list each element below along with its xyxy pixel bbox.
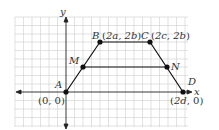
label-C: C [141, 30, 149, 41]
point-M [80, 64, 85, 69]
coord-C: (2c, 2b) [151, 30, 190, 41]
y-axis-down-arrow-icon [64, 124, 68, 129]
point-N [164, 64, 169, 69]
label-N: N [170, 61, 181, 72]
coord-B: (2a, 2b) [102, 30, 141, 41]
point-A [63, 89, 68, 94]
label-A: A [54, 79, 62, 90]
label-B: B [91, 30, 99, 41]
x-axis-right-arrow-icon [187, 90, 192, 94]
x-axis-left-arrow-icon [16, 90, 21, 94]
coord-A: (0, 0) [38, 95, 65, 106]
label-D: D [187, 76, 196, 87]
y-axis-up-arrow-icon [64, 17, 68, 22]
y-axis-label: y [59, 6, 66, 17]
point-D [180, 89, 185, 94]
trapezoid-diagram: y x B (2a, 2b) C (2c, 2b) M N A (0, 0) D… [0, 0, 219, 130]
coord-D: (2d, 0) [170, 95, 203, 106]
label-M: M [68, 55, 80, 66]
